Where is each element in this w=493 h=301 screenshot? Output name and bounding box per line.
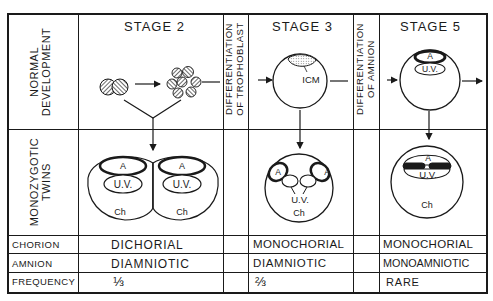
stage-3-uv-label: U.V. xyxy=(291,194,309,205)
stage-2-twin-b-amnion-label: A xyxy=(179,161,185,171)
stage-3-chorion-label: Ch xyxy=(293,208,305,218)
stage-5-twin-chorion-label: Ch xyxy=(421,200,433,210)
stage-5-amnion-label: A xyxy=(427,51,433,61)
icm-label: ICM xyxy=(302,74,320,85)
stage-5-twin-amnion-label: A xyxy=(425,153,431,163)
morula-icon xyxy=(167,67,201,99)
dichorial-twins-icon xyxy=(88,157,218,220)
stage-5-uv-label: U.V. xyxy=(422,64,438,74)
stage-2-twin-b-uv-label: U.V. xyxy=(173,179,192,190)
stage-3-twin-a-amnion-label: A xyxy=(275,167,281,177)
stage-2-twin-b-chorion-label: Ch xyxy=(176,207,188,217)
stage-2-twin-a-uv-label: U.V. xyxy=(114,179,133,190)
stage-3-twin-b-amnion-label: A xyxy=(324,167,330,177)
stage-2-twin-a-chorion-label: Ch xyxy=(114,207,126,217)
two-cell-embryo-icon xyxy=(100,79,128,95)
stage-5-twin-uv-label: U.V. xyxy=(419,169,437,180)
stage-2-twin-a-amnion-label: A xyxy=(120,161,126,171)
diagram-drawings: A U.V. Ch A U.V. Ch ICM A A U.V. Ch A xyxy=(0,0,493,301)
